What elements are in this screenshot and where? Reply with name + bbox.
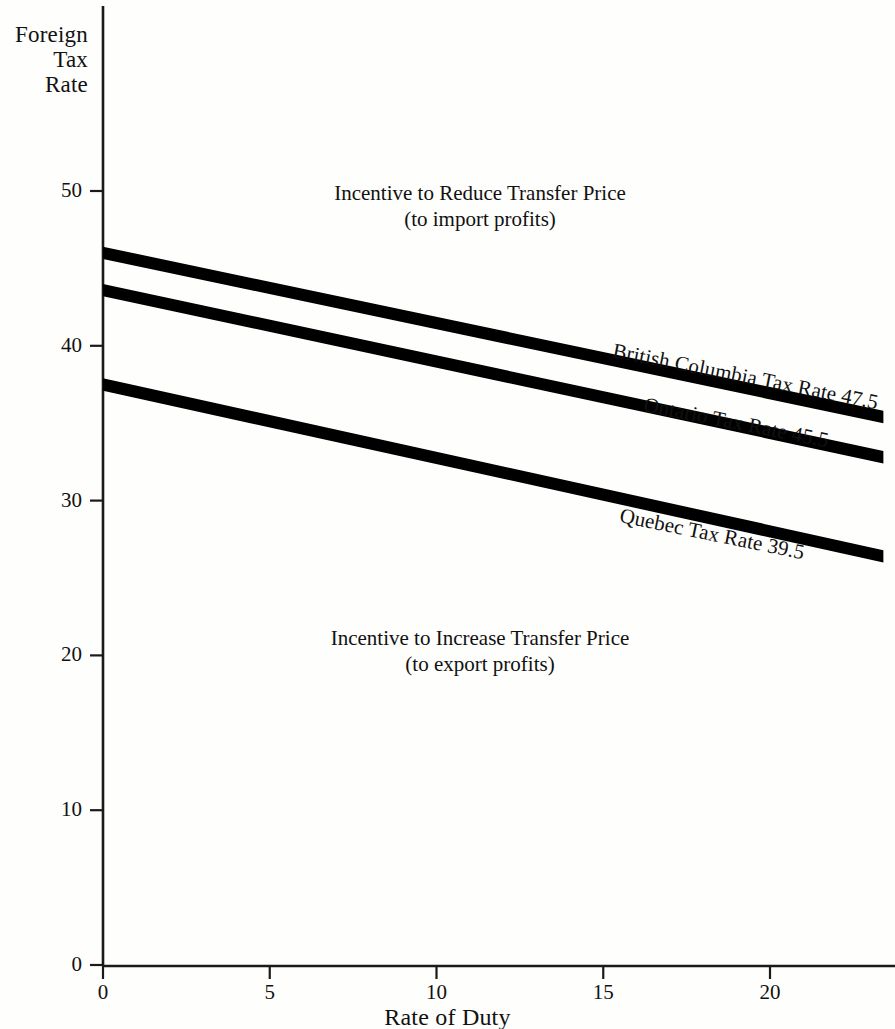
y-axis-ticks	[90, 191, 103, 965]
annotation-lower-line2: (to export profits)	[270, 651, 690, 677]
chart-plot-area	[0, 0, 895, 1029]
x-axis-tick-label: 20	[740, 982, 800, 1003]
annotation-lower-line1: Incentive to Increase Transfer Price	[331, 626, 630, 650]
x-axis-tick-label: 5	[240, 982, 300, 1003]
x-axis-tick-label: 15	[573, 982, 633, 1003]
y-axis-title: Foreign Tax Rate	[2, 22, 88, 97]
y-axis-tick-label: 40	[24, 335, 82, 356]
annotation-upper-line2: (to import profits)	[270, 206, 690, 232]
series-bands-group	[103, 247, 883, 563]
x-axis-title: Rate of Duty	[0, 1004, 895, 1029]
series-band-0	[103, 247, 883, 423]
annotation-lower-region: Incentive to Increase Transfer Price (to…	[270, 625, 690, 677]
chart-figure: Foreign Tax Rate Rate of Duty 5040302010…	[0, 0, 895, 1029]
annotation-upper-line1: Incentive to Reduce Transfer Price	[334, 181, 626, 205]
y-axis-tick-label: 20	[24, 644, 82, 665]
x-axis-ticks	[103, 966, 770, 979]
y-axis-tick-label: 0	[24, 954, 82, 975]
y-axis-tick-label: 50	[24, 180, 82, 201]
annotation-upper-region: Incentive to Reduce Transfer Price (to i…	[270, 180, 690, 232]
x-axis-tick-label: 0	[73, 982, 133, 1003]
y-axis-tick-label: 10	[24, 799, 82, 820]
y-axis-tick-label: 30	[24, 490, 82, 511]
x-axis-tick-label: 10	[407, 982, 467, 1003]
